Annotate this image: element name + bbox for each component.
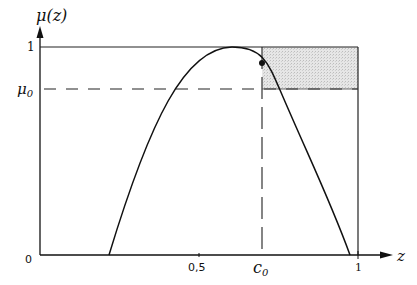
y-tick-one-label: 1	[27, 40, 35, 54]
x-axis-label: z	[396, 247, 405, 265]
intersection-point	[259, 60, 265, 66]
y-tick-mu0-label: μ0	[17, 80, 34, 99]
membership-chart: μ(z) 1 μ0 0 0,5 c0 1 z	[0, 0, 417, 285]
x-tick-half-label: 0,5	[188, 261, 206, 274]
origin-label: 0	[25, 253, 32, 266]
y-axis-label: μ(z)	[36, 6, 67, 25]
y-axis-arrow-icon	[37, 26, 44, 38]
x-tick-c0-label: c0	[253, 258, 269, 278]
x-axis-arrow-icon	[380, 252, 393, 259]
x-tick-one-label: 1	[355, 261, 362, 274]
